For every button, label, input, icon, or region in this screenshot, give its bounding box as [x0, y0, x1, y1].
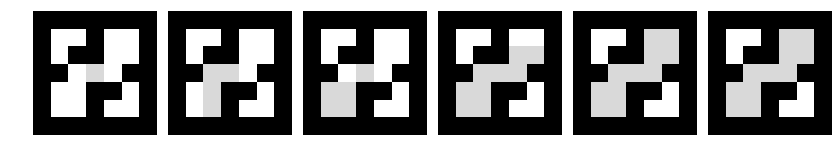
maze-cell-open: [51, 46, 69, 64]
maze-cell-wall: [544, 29, 562, 47]
maze-cell-open: [104, 29, 122, 47]
maze-cell-fill: [473, 100, 491, 118]
maze-cell-open: [374, 100, 392, 118]
maze-cell-wall: [86, 11, 104, 29]
maze-cell-wall: [186, 64, 204, 82]
maze-cell-open: [203, 29, 221, 47]
maze-cell-wall: [33, 29, 51, 47]
maze-cell-fill: [644, 46, 662, 64]
maze-cell-wall: [456, 117, 474, 135]
maze-cell-fill: [626, 64, 644, 82]
maze-cell-fill: [644, 64, 662, 82]
maze-cell-wall: [33, 82, 51, 100]
maze-cell-wall: [68, 46, 86, 64]
maze-cell-wall: [573, 29, 591, 47]
maze-cell-fill: [221, 64, 239, 82]
maze-cell-fill: [761, 64, 779, 82]
maze-cell-open: [797, 82, 815, 100]
maze-cell-wall: [708, 46, 726, 64]
maze-cell-wall: [33, 46, 51, 64]
maze-cell-wall: [573, 11, 591, 29]
maze-cell-fill: [509, 64, 527, 82]
maze-cell-open: [104, 46, 122, 64]
maze-cell-wall: [104, 82, 122, 100]
maze-cell-wall: [86, 82, 104, 100]
maze-cell-wall: [527, 11, 545, 29]
maze-cell-fill: [779, 29, 797, 47]
maze-cell-wall: [221, 46, 239, 64]
maze-cell-wall: [122, 64, 140, 82]
maze-cell-wall: [491, 46, 509, 64]
maze-cell-wall: [409, 82, 427, 100]
maze-cell-wall: [679, 46, 697, 64]
maze-cell-wall: [438, 117, 456, 135]
maze-cell-wall: [139, 117, 157, 135]
maze-cell-fill: [644, 29, 662, 47]
maze-cell-open: [186, 46, 204, 64]
maze-cell-wall: [544, 64, 562, 82]
maze-cell-wall: [139, 100, 157, 118]
maze-cell-open: [591, 29, 609, 47]
maze-cell-wall: [608, 117, 626, 135]
maze-cell-fill: [591, 82, 609, 100]
maze-cell-open: [68, 29, 86, 47]
maze-cell-wall: [168, 64, 186, 82]
maze-cell-open: [527, 82, 545, 100]
maze-cell-wall: [356, 29, 374, 47]
maze-cell-wall: [679, 117, 697, 135]
maze-cell-wall: [33, 11, 51, 29]
maze-cell-fill: [509, 46, 527, 64]
maze-cell-wall: [409, 117, 427, 135]
maze-cell-open: [257, 82, 275, 100]
maze-cell-wall: [438, 11, 456, 29]
maze-cell-wall: [591, 11, 609, 29]
maze-cell-fill: [321, 100, 339, 118]
maze-cell-wall: [356, 100, 374, 118]
maze-cell-fill: [338, 100, 356, 118]
maze-cell-wall: [321, 117, 339, 135]
maze-cell-wall: [509, 11, 527, 29]
maze-cell-wall: [473, 46, 491, 64]
maze-cell-wall: [239, 11, 257, 29]
maze-cell-wall: [438, 29, 456, 47]
maze-cell-wall: [303, 82, 321, 100]
maze-cell-wall: [573, 100, 591, 118]
maze-cell-wall: [743, 117, 761, 135]
maze-cell-fill: [608, 82, 626, 100]
maze-cell-wall: [679, 82, 697, 100]
maze-cell-wall: [203, 11, 221, 29]
maze-cell-open: [104, 64, 122, 82]
maze-cell-open: [392, 82, 410, 100]
maze-cell-wall: [122, 11, 140, 29]
maze-cell-open: [509, 29, 527, 47]
maze-cell-wall: [139, 11, 157, 29]
maze-cell-wall: [527, 64, 545, 82]
maze-cell-wall: [274, 82, 292, 100]
maze-cell-wall: [374, 117, 392, 135]
maze-cell-open: [338, 29, 356, 47]
maze-cell-wall: [726, 117, 744, 135]
maze-cell-open: [392, 46, 410, 64]
maze-cell-open: [239, 29, 257, 47]
maze-cell-open: [456, 29, 474, 47]
maze-cell-wall: [438, 100, 456, 118]
maze-cell-wall: [573, 117, 591, 135]
maze-cell-wall: [257, 117, 275, 135]
maze-cell-wall: [473, 11, 491, 29]
maze-cell-open: [104, 100, 122, 118]
maze-grid: [438, 11, 562, 135]
maze-cell-wall: [761, 117, 779, 135]
maze-cell-fill: [321, 82, 339, 100]
maze-cell-open: [239, 46, 257, 64]
maze-cell-wall: [303, 64, 321, 82]
maze-cell-wall: [321, 11, 339, 29]
maze-grid: [708, 11, 832, 135]
maze-cell-wall: [392, 64, 410, 82]
maze-cell-wall: [104, 117, 122, 135]
maze-cell-open: [473, 29, 491, 47]
maze-cell-wall: [797, 64, 815, 82]
maze-cell-wall: [168, 82, 186, 100]
maze-cell-wall: [203, 117, 221, 135]
maze-cell-wall: [374, 11, 392, 29]
maze-cell-wall: [708, 100, 726, 118]
